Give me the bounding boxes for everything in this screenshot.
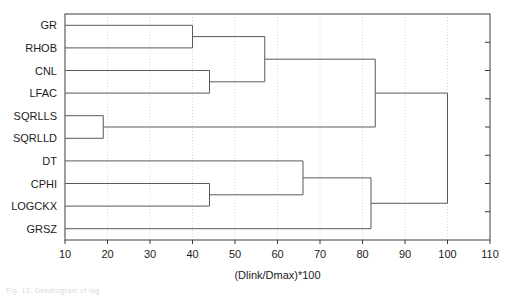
merge-m3 xyxy=(65,71,210,94)
xtick-label-50: 50 xyxy=(229,248,241,260)
merge-m4 xyxy=(65,184,210,207)
dendrogram-figure: 102030405060708090100110GRRHOBCNLLFACSQR… xyxy=(0,0,509,297)
leaf-label-gr: GR xyxy=(41,19,58,31)
leaf-label-logckx: LOGCKX xyxy=(11,200,58,212)
merge-link-m1 xyxy=(65,116,103,139)
leaf-label-sqrlld: SQRLLD xyxy=(13,132,57,144)
leaf-label-dt: DT xyxy=(42,155,57,167)
x-axis-title: (Dlink/Dmax)*100 xyxy=(234,269,320,281)
xtick-label-40: 40 xyxy=(186,248,198,260)
xtick-label-20: 20 xyxy=(101,248,113,260)
merge-link-m3 xyxy=(65,71,210,94)
merge-link-m4 xyxy=(65,184,210,207)
leaf-label-cphi: CPHI xyxy=(31,178,57,190)
dendrogram-plot: 102030405060708090100110GRRHOBCNLLFACSQR… xyxy=(0,0,509,297)
xtick-label-110: 110 xyxy=(481,248,499,260)
leaf-label-rhob: RHOB xyxy=(25,42,57,54)
xtick-label-100: 100 xyxy=(438,248,456,260)
xtick-label-80: 80 xyxy=(356,248,368,260)
figure-caption: Fig. 12. Dendrogram of log xyxy=(6,287,100,294)
xtick-label-60: 60 xyxy=(271,248,283,260)
merge-link-m2 xyxy=(65,25,193,48)
merge-m1 xyxy=(65,116,103,139)
merge-link-m7 xyxy=(65,178,371,229)
merge-link-m5 xyxy=(193,37,265,82)
xtick-label-10: 10 xyxy=(59,248,71,260)
merge-link-m6 xyxy=(65,161,303,195)
xtick-label-90: 90 xyxy=(399,248,411,260)
merge-link-m9 xyxy=(371,93,448,203)
leaf-label-sqrlls: SQRLLS xyxy=(14,110,57,122)
leaf-label-lfac: LFAC xyxy=(29,87,57,99)
merge-m5 xyxy=(193,37,265,82)
xtick-label-70: 70 xyxy=(314,248,326,260)
merge-m7 xyxy=(65,178,371,229)
merge-m6 xyxy=(65,161,303,195)
xtick-label-30: 30 xyxy=(144,248,156,260)
leaf-label-grsz: GRSZ xyxy=(26,223,57,235)
merge-m9 xyxy=(371,93,448,203)
leaf-label-cnl: CNL xyxy=(35,65,57,77)
merge-m2 xyxy=(65,25,193,48)
